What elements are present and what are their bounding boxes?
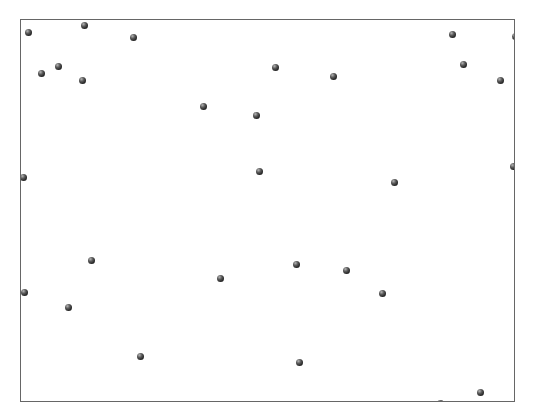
data-point — [296, 359, 303, 366]
data-point — [38, 70, 45, 77]
data-point — [25, 29, 32, 36]
data-point — [65, 304, 72, 311]
data-point — [497, 77, 504, 84]
data-point — [510, 163, 516, 170]
data-point — [137, 353, 144, 360]
data-point — [21, 289, 28, 296]
data-point — [477, 389, 484, 396]
data-point — [460, 61, 467, 68]
data-point — [256, 168, 263, 175]
data-point — [88, 257, 95, 264]
data-point — [437, 400, 444, 403]
data-point — [293, 261, 300, 268]
data-point — [272, 64, 279, 71]
data-point — [81, 22, 88, 29]
data-point — [253, 112, 260, 119]
data-point — [379, 290, 386, 297]
data-point — [512, 33, 516, 40]
data-point — [449, 31, 456, 38]
data-point — [79, 77, 86, 84]
data-point — [330, 73, 337, 80]
data-point — [130, 34, 137, 41]
data-point — [343, 267, 350, 274]
data-point — [217, 275, 224, 282]
data-point — [55, 63, 62, 70]
data-point — [391, 179, 398, 186]
data-point — [20, 174, 27, 181]
scatter-plot-area — [20, 19, 515, 402]
data-point — [200, 103, 207, 110]
